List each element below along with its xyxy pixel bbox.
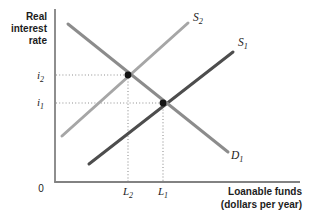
curve-label-d1: D1 — [231, 149, 243, 166]
x-axis-title: Loanable funds (dollars per year) — [150, 186, 302, 211]
loanable-funds-figure: Real interest rate i2 i1 0 L2 L1 S2 S1 D… — [0, 0, 319, 219]
y-axis-title: Real interest rate — [0, 11, 47, 47]
curve-label-s2: S2 — [193, 11, 203, 28]
curve-label-s2-sub: 2 — [199, 17, 203, 26]
equilibrium-dot-L2 — [125, 72, 132, 79]
demand-curve-D1 — [68, 24, 228, 152]
curve-label-s1-sub: 1 — [244, 42, 248, 51]
y-tick-i1: i1 — [0, 96, 44, 113]
x-tick-l2: L2 — [108, 185, 148, 202]
y-tick-i1-sub: 1 — [40, 102, 44, 111]
curve-label-s1: S1 — [238, 36, 248, 53]
origin-label: 0 — [33, 183, 49, 194]
supply-curve-S2 — [62, 23, 188, 136]
equilibrium-dot-L1 — [160, 100, 167, 107]
supply-curve-S1 — [89, 52, 233, 164]
x-tick-l2-sub: 2 — [129, 191, 133, 200]
y-tick-i2-sub: 2 — [40, 75, 44, 84]
curve-label-d1-sub: 1 — [239, 155, 243, 164]
y-tick-i2: i2 — [0, 69, 44, 86]
